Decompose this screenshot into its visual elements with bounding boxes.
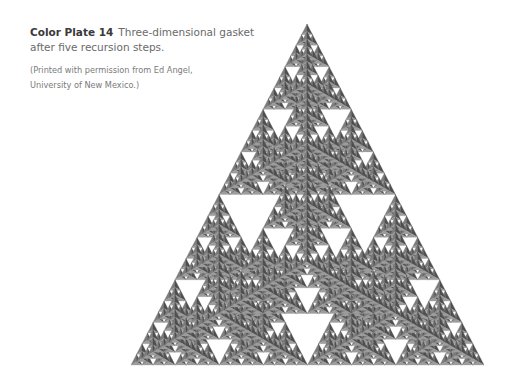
gasket-tetrahedra bbox=[131, 24, 484, 365]
gasket-figure bbox=[0, 0, 507, 379]
